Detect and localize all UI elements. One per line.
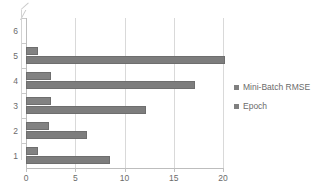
y-axis-tick-label: 3 bbox=[4, 101, 18, 111]
legend-label-epoch: Epoch bbox=[243, 101, 267, 111]
x-axis-tick bbox=[26, 168, 27, 172]
x-axis-tick-label: 20 bbox=[213, 173, 233, 183]
bar-mini-batch-rmse bbox=[26, 72, 51, 80]
y-axis-tick-label: 2 bbox=[4, 126, 18, 136]
y-axis-tick bbox=[22, 143, 26, 144]
gridline bbox=[75, 18, 76, 168]
bar-chart: 654321 05101520 Mini-Batch RMSE Epoch bbox=[0, 0, 315, 196]
x-axis-tick bbox=[223, 168, 224, 172]
y-axis-tick bbox=[22, 43, 26, 44]
bar-mini-batch-rmse bbox=[26, 47, 38, 55]
legend-label-mini-batch-rmse: Mini-Batch RMSE bbox=[243, 82, 310, 92]
plot-wall-top-edge bbox=[21, 2, 29, 9]
x-axis-tick-label: 0 bbox=[16, 173, 36, 183]
x-axis-tick bbox=[75, 168, 76, 172]
legend-item-mini-batch-rmse: Mini-Batch RMSE bbox=[234, 82, 310, 92]
bar-mini-batch-rmse bbox=[26, 122, 49, 130]
secondary-axis-line bbox=[21, 10, 22, 160]
bar-epoch bbox=[26, 106, 146, 114]
y-axis-tick bbox=[22, 118, 26, 119]
legend-swatch-icon bbox=[234, 104, 239, 109]
gridline bbox=[174, 18, 175, 168]
y-axis-tick-label: 5 bbox=[4, 51, 18, 61]
legend-swatch-icon bbox=[234, 85, 239, 90]
y-axis-tick bbox=[22, 93, 26, 94]
bar-epoch bbox=[26, 131, 87, 139]
y-axis-tick-label: 6 bbox=[4, 26, 18, 36]
bar-mini-batch-rmse bbox=[26, 97, 51, 105]
bar-epoch bbox=[26, 56, 225, 64]
gridline bbox=[223, 18, 224, 168]
bar-epoch bbox=[26, 81, 195, 89]
y-axis-tick bbox=[22, 68, 26, 69]
x-axis-tick-label: 5 bbox=[65, 173, 85, 183]
bar-epoch bbox=[26, 156, 110, 164]
x-axis-tick bbox=[174, 168, 175, 172]
y-axis-line bbox=[26, 18, 27, 168]
bar-mini-batch-rmse bbox=[26, 147, 38, 155]
legend-item-epoch: Epoch bbox=[234, 101, 310, 111]
y-axis-tick-label: 4 bbox=[4, 76, 18, 86]
x-axis-tick bbox=[125, 168, 126, 172]
y-axis-tick bbox=[22, 18, 26, 19]
gridline bbox=[125, 18, 126, 168]
x-axis-tick-label: 10 bbox=[115, 173, 135, 183]
chart-legend: Mini-Batch RMSE Epoch bbox=[234, 82, 310, 120]
y-axis-tick-label: 1 bbox=[4, 151, 18, 161]
x-axis-tick-label: 15 bbox=[164, 173, 184, 183]
